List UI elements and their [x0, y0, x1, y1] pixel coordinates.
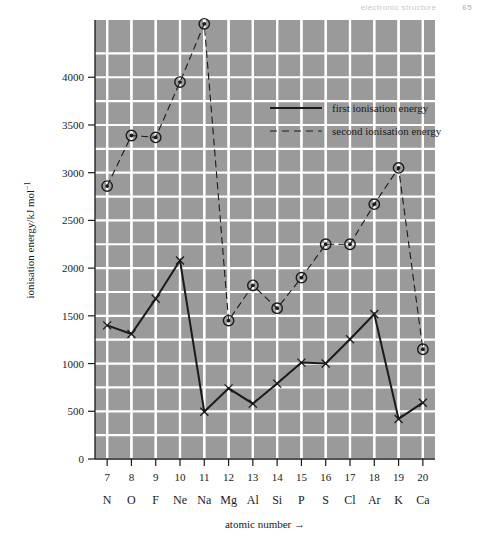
y-tick-label: 3500	[62, 119, 85, 131]
element-symbol-label: Na	[197, 493, 212, 507]
x-tick-label: 9	[153, 471, 159, 483]
x-tick-label: 14	[272, 471, 284, 483]
x-tick-label: 12	[223, 471, 234, 483]
chart-svg: 05001000150020002500300035004000 7N8O9F1…	[0, 0, 478, 537]
element-symbol-label: Ar	[368, 493, 381, 507]
x-tick-label: 7	[104, 471, 110, 483]
legend-label: second ionisation energy	[332, 125, 442, 137]
x-tick-label: 10	[175, 471, 187, 483]
y-tick-label: 2500	[62, 214, 85, 226]
y-axis-title: ionisation energy/kJ mol−1	[23, 181, 36, 298]
y-tick-label: 2000	[62, 262, 85, 274]
ionisation-energy-chart: 05001000150020002500300035004000 7N8O9F1…	[0, 0, 478, 537]
x-axis-ticks: 7N8O9F10Ne11Na12Mg13Al14Si15P16S17Cl18Ar…	[103, 459, 430, 507]
x-tick-label: 15	[296, 471, 308, 483]
x-tick-label: 18	[369, 471, 381, 483]
y-tick-label: 3000	[62, 167, 85, 179]
element-symbol-label: O	[127, 493, 136, 507]
y-tick-label: 1500	[62, 310, 85, 322]
x-tick-label: 20	[417, 471, 429, 483]
element-symbol-label: Al	[247, 493, 260, 507]
element-symbol-label: Ne	[173, 493, 187, 507]
element-symbol-label: K	[394, 493, 403, 507]
y-tick-label: 1000	[62, 358, 85, 370]
x-tick-label: 8	[129, 471, 135, 483]
element-symbol-label: F	[152, 493, 159, 507]
element-symbol-label: Mg	[220, 493, 237, 507]
y-tick-label: 0	[79, 453, 85, 465]
page-root: electronic structure 65 0500100015002000…	[0, 0, 478, 537]
element-symbol-label: N	[103, 493, 112, 507]
x-axis-title: atomic number →	[225, 518, 305, 530]
element-symbol-label: P	[298, 493, 305, 507]
x-tick-label: 11	[199, 471, 210, 483]
element-symbol-label: Ca	[416, 493, 430, 507]
legend-label: first ionisation energy	[332, 102, 429, 114]
x-tick-label: 13	[247, 471, 259, 483]
x-tick-label: 16	[320, 471, 332, 483]
y-tick-label: 500	[68, 405, 85, 417]
x-tick-label: 19	[393, 471, 405, 483]
element-symbol-label: Si	[272, 493, 283, 507]
x-tick-label: 17	[345, 471, 357, 483]
y-tick-label: 4000	[62, 71, 85, 83]
element-symbol-label: Cl	[344, 493, 356, 507]
element-symbol-label: S	[322, 493, 329, 507]
y-axis-ticks: 05001000150020002500300035004000	[62, 71, 95, 465]
